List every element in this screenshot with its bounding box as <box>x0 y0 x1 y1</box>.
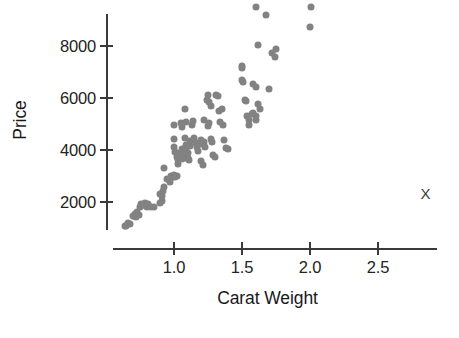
data-point <box>179 123 186 130</box>
data-point <box>239 64 246 71</box>
data-point <box>307 23 314 30</box>
y-tick-label-8000: 8000 <box>60 37 96 56</box>
data-point <box>123 223 130 230</box>
data-point <box>217 119 224 126</box>
data-point <box>145 200 152 207</box>
data-point <box>252 84 259 91</box>
data-point <box>249 109 256 116</box>
data-point <box>205 123 212 130</box>
data-point <box>161 184 168 191</box>
data-point <box>187 143 194 150</box>
data-point <box>158 197 165 204</box>
data-point <box>239 76 246 83</box>
data-point <box>181 155 188 162</box>
x-tick-label-2.5: 2.5 <box>367 258 389 277</box>
data-point <box>168 173 175 180</box>
data-point <box>207 136 214 143</box>
data-point <box>141 202 148 209</box>
y-tick-6000 <box>100 97 113 99</box>
data-point <box>268 49 275 56</box>
data-point <box>142 200 149 207</box>
data-point <box>175 161 182 168</box>
data-point <box>221 137 228 144</box>
data-point <box>188 122 195 129</box>
data-point <box>249 80 256 87</box>
data-point <box>195 147 202 154</box>
data-point <box>202 143 209 150</box>
data-point <box>176 151 183 158</box>
data-point <box>243 98 250 105</box>
data-point <box>124 220 131 227</box>
x-tick-2.5 <box>377 242 379 255</box>
data-point <box>308 4 315 11</box>
data-point <box>200 117 207 124</box>
data-point <box>137 203 144 210</box>
data-point <box>171 144 178 151</box>
x-axis-line <box>113 248 437 250</box>
data-point <box>255 41 262 48</box>
x-annotation-marker: X <box>421 184 431 201</box>
data-point <box>252 113 259 120</box>
scatter-plot-figure: 2000400060008000 1.01.52.02.5 X Price Ca… <box>0 0 459 338</box>
data-point <box>271 53 278 60</box>
data-point <box>183 118 190 125</box>
data-point <box>190 117 197 124</box>
data-point <box>166 178 173 185</box>
data-point <box>143 203 150 210</box>
y-axis-label: Price <box>10 100 31 139</box>
data-point <box>172 174 179 181</box>
data-point <box>185 157 192 164</box>
data-point <box>256 106 263 113</box>
data-point <box>273 45 280 52</box>
data-point <box>177 153 184 160</box>
x-tick-label-1.5: 1.5 <box>231 258 253 277</box>
data-point <box>157 199 164 206</box>
data-point <box>194 143 201 150</box>
data-point <box>206 99 213 106</box>
data-point <box>181 106 188 113</box>
y-tick-4000 <box>100 149 113 151</box>
data-point <box>180 149 187 156</box>
data-point <box>198 137 205 144</box>
data-point <box>215 108 222 115</box>
data-point <box>175 157 182 164</box>
data-point <box>187 137 194 144</box>
x-tick-label-1.0: 1.0 <box>163 258 185 277</box>
data-point <box>171 135 178 142</box>
y-tick-2000 <box>100 201 113 203</box>
data-point <box>245 116 252 123</box>
data-point <box>196 140 203 147</box>
data-point <box>219 121 226 128</box>
data-point <box>252 4 259 11</box>
x-tick-2.0 <box>309 242 311 255</box>
y-tick-label-4000: 4000 <box>60 141 96 160</box>
data-point <box>132 213 139 220</box>
data-point <box>214 93 221 100</box>
data-point <box>199 161 206 168</box>
data-point <box>218 105 225 112</box>
data-point <box>191 135 198 142</box>
data-point <box>122 222 129 229</box>
data-point <box>263 11 270 18</box>
data-point <box>173 154 180 161</box>
data-point <box>183 142 190 149</box>
data-point <box>135 212 142 219</box>
x-axis-label: Carat Weight <box>0 288 459 309</box>
data-point <box>131 211 138 218</box>
data-point <box>160 188 167 195</box>
data-point <box>171 121 178 128</box>
data-point <box>171 172 178 179</box>
data-point <box>210 152 217 159</box>
data-point <box>248 111 255 118</box>
data-point <box>213 91 220 98</box>
data-point <box>183 148 190 155</box>
data-point <box>130 212 137 219</box>
data-point <box>266 85 273 92</box>
data-point <box>138 200 145 207</box>
data-point <box>177 120 184 127</box>
data-point <box>173 150 180 157</box>
data-point <box>252 117 259 124</box>
data-point <box>181 134 188 141</box>
data-point <box>179 156 186 163</box>
data-point <box>241 97 248 104</box>
